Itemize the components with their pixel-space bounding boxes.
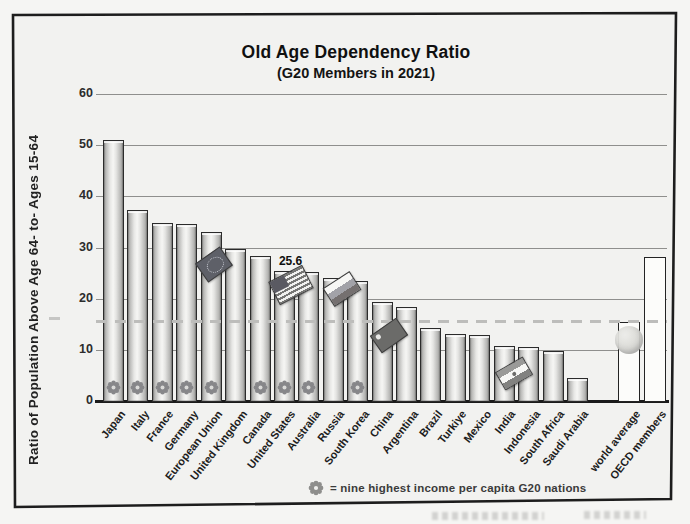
star-icon xyxy=(179,380,194,395)
star-icon xyxy=(106,380,121,395)
star-icon xyxy=(130,380,145,395)
star-icon xyxy=(301,380,316,395)
value-label-united-states: 25.6 xyxy=(279,254,302,268)
y-tick-50: 50 xyxy=(51,137,93,151)
legend: = nine highest income per capita G20 nat… xyxy=(308,480,586,496)
chart-title: Old Age Dependency Ratio xyxy=(96,42,616,63)
bar-turkiye xyxy=(445,334,466,402)
y-tick-0: 0 xyxy=(51,393,93,407)
scan-artifact-dash xyxy=(49,317,60,320)
gridline-50 xyxy=(96,145,667,146)
y-tick-60: 60 xyxy=(51,86,93,100)
globe-icon xyxy=(615,326,643,354)
y-tick-20: 20 xyxy=(51,291,93,305)
bar-oecd-members xyxy=(644,257,666,402)
star-icon xyxy=(350,380,365,395)
bar-japan xyxy=(103,140,124,402)
y-tick-30: 30 xyxy=(51,240,93,254)
star-icon xyxy=(277,380,292,395)
bar-france xyxy=(152,223,173,402)
scan-artifact-smudge xyxy=(432,512,544,520)
y-tick-40: 40 xyxy=(51,188,93,202)
bar-italy xyxy=(127,210,148,402)
star-icon xyxy=(155,380,170,395)
bar-saudi-arabia xyxy=(567,378,588,402)
scanned-chart-page: Old Age Dependency Ratio (G20 Members in… xyxy=(0,0,690,524)
chart-subtitle: (G20 Members in 2021) xyxy=(96,65,616,81)
scan-artifact-smudge xyxy=(584,511,646,519)
star-icon xyxy=(204,380,219,395)
bar-south-africa xyxy=(543,351,564,402)
plot-area: 25.6 xyxy=(96,95,667,402)
star-rosette-icon xyxy=(308,480,324,496)
gridline-40 xyxy=(96,196,667,197)
bar-brazil xyxy=(420,328,441,402)
bar-germany xyxy=(176,224,197,402)
reference-dashed-line xyxy=(96,320,667,323)
y-tick-10: 10 xyxy=(51,342,93,356)
bar-united-kingdom xyxy=(225,249,246,403)
gridline-60 xyxy=(96,94,667,95)
chart-header: Old Age Dependency Ratio (G20 Members in… xyxy=(96,42,616,81)
star-icon xyxy=(253,380,268,395)
bar-mexico xyxy=(469,335,490,402)
legend-text: = nine highest income per capita G20 nat… xyxy=(330,482,586,494)
y-axis-title: Ratio of Population Above Age 64- to- Ag… xyxy=(24,122,42,478)
